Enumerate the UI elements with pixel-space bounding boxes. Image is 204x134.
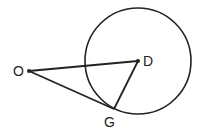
segment-dg xyxy=(114,61,138,109)
label-o: O xyxy=(13,63,24,79)
point-o xyxy=(27,69,31,73)
label-g: G xyxy=(104,114,115,130)
point-d xyxy=(136,59,140,63)
segment-og xyxy=(29,71,114,109)
geometry-diagram: O D G xyxy=(0,0,204,134)
label-d: D xyxy=(143,53,153,69)
segment-od xyxy=(29,61,138,71)
